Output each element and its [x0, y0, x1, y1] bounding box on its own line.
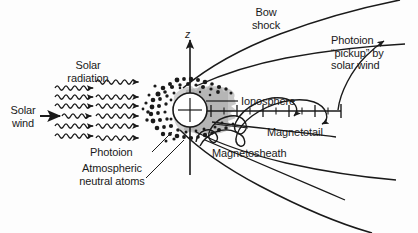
bow-shock-lower-line [180, 130, 372, 233]
label-photoion-pickup: Photoion “pickup” by solar wind [331, 34, 417, 72]
label-magnetotail: Magnetotail [267, 126, 323, 139]
label-axis-z: z [185, 28, 190, 41]
label-magnetosheath: Magnetosheath [212, 147, 287, 160]
solar-radiation-wavy-arrows-left [55, 86, 93, 138]
label-solar-radiation: Solar radiation [46, 59, 130, 84]
label-atmospheric-neutral-atoms: Atmospheric neutral atoms [58, 162, 166, 187]
label-bow-shock: Bow shock [240, 6, 292, 31]
diagram-canvas: Solar radiation Solar wind Photoion Atmo… [0, 0, 418, 233]
label-photoion: Photoion [90, 146, 133, 159]
label-ionosphere: Ionosphere [241, 95, 295, 108]
planet-body [173, 93, 207, 127]
label-solar-wind: Solar wind [2, 104, 44, 129]
solar-radiation-wavy-arrows-right [96, 80, 139, 140]
